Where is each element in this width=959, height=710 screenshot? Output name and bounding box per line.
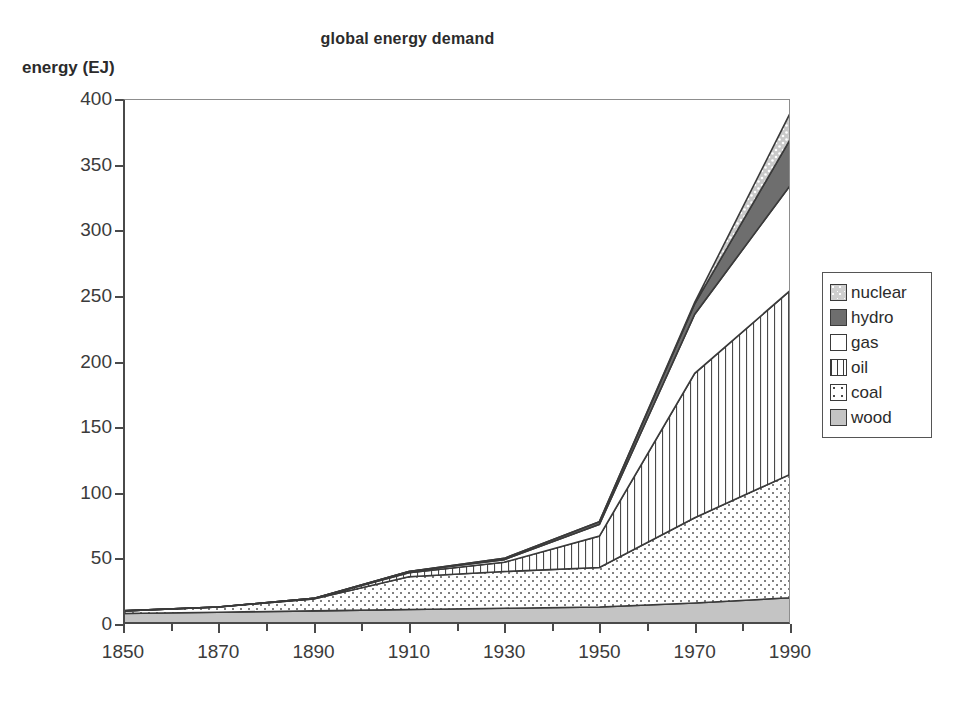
y-tick-label: 250 [46, 285, 112, 307]
legend-label: gas [851, 334, 878, 351]
wood-swatch-icon [830, 409, 847, 426]
x-tick-mark [695, 624, 697, 633]
legend-label: wood [851, 409, 892, 426]
y-axis-label: energy (EJ) [22, 58, 115, 78]
y-tick-label: 0 [46, 613, 112, 635]
x-tick-mark [123, 624, 125, 633]
legend-item-coal[interactable]: coal [830, 380, 925, 405]
x-tick-mark-minor [742, 624, 744, 631]
x-tick-label: 1930 [464, 641, 544, 663]
plot-area [123, 99, 790, 624]
legend-label: hydro [851, 309, 894, 326]
y-tick-label: 350 [46, 154, 112, 176]
x-tick-mark [218, 624, 220, 633]
x-tick-label: 1950 [559, 641, 639, 663]
nuclear-swatch-icon [830, 284, 847, 301]
x-tick-mark [599, 624, 601, 633]
legend-label: coal [851, 384, 882, 401]
legend-label: oil [851, 359, 868, 376]
x-tick-mark-minor [266, 624, 268, 631]
plot-frame [123, 99, 790, 624]
legend-item-gas[interactable]: gas [830, 330, 925, 355]
x-tick-mark-minor [552, 624, 554, 631]
y-tick-label: 50 [46, 547, 112, 569]
coal-swatch-icon [830, 384, 847, 401]
x-tick-label: 1990 [750, 641, 830, 663]
y-tick-label: 100 [46, 482, 112, 504]
x-tick-label: 1870 [178, 641, 258, 663]
legend: nuclearhydrogasoilcoalwood [822, 272, 932, 438]
y-tick-label: 200 [46, 351, 112, 373]
chart-container: global energy demand energy (EJ) 0501001… [0, 0, 959, 710]
gas-swatch-icon [830, 334, 847, 351]
x-tick-label: 1850 [83, 641, 163, 663]
x-tick-mark [314, 624, 316, 633]
x-tick-mark-minor [457, 624, 459, 631]
chart-title: global energy demand [0, 30, 815, 48]
hydro-swatch-icon [830, 309, 847, 326]
legend-item-hydro[interactable]: hydro [830, 305, 925, 330]
x-tick-mark-minor [361, 624, 363, 631]
x-tick-mark-minor [171, 624, 173, 631]
y-tick-label: 150 [46, 416, 112, 438]
x-tick-label: 1890 [274, 641, 354, 663]
legend-item-wood[interactable]: wood [830, 405, 925, 430]
x-tick-mark [790, 624, 792, 633]
oil-swatch-icon [830, 359, 847, 376]
x-tick-mark-minor [647, 624, 649, 631]
y-tick-label: 300 [46, 219, 112, 241]
x-tick-label: 1970 [655, 641, 735, 663]
x-tick-mark [409, 624, 411, 633]
x-tick-label: 1910 [369, 641, 449, 663]
legend-item-nuclear[interactable]: nuclear [830, 280, 925, 305]
y-tick-label: 400 [46, 88, 112, 110]
x-tick-mark [504, 624, 506, 633]
legend-label: nuclear [851, 284, 907, 301]
legend-item-oil[interactable]: oil [830, 355, 925, 380]
